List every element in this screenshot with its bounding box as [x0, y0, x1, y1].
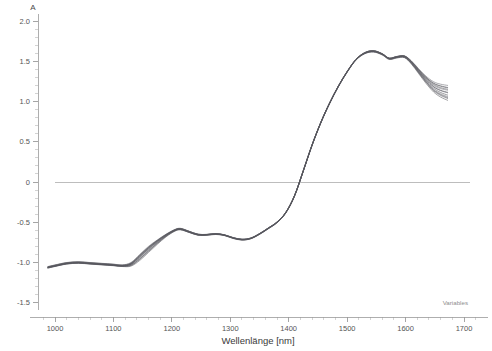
x-tick-label: 1500 — [339, 324, 356, 333]
y-axis-tick-labels: 2.01.51.00.50-0.5-1.0-1.5 — [17, 17, 30, 308]
spectral-chart: 2.01.51.00.50-0.5-1.0-1.5 10001100120013… — [0, 0, 492, 351]
y-axis-minor-ticks — [35, 29, 38, 295]
y-tick-label: 1.0 — [20, 97, 30, 106]
spectra-traces — [48, 51, 448, 269]
spectrum-trace — [48, 51, 448, 267]
spectrum-trace — [48, 51, 448, 267]
y-tick-label: -0.5 — [17, 218, 30, 227]
spectrum-trace — [48, 52, 448, 268]
x-axis-tick-labels: 10001100120013001400150016001700 — [47, 324, 473, 333]
spectrum-trace — [48, 51, 448, 267]
x-tick-label: 1400 — [280, 324, 297, 333]
spectrum-trace — [48, 51, 448, 267]
y-axis-major-ticks — [33, 21, 38, 303]
y-tick-label: 0 — [26, 178, 30, 187]
spectrum-trace — [48, 51, 448, 267]
x-tick-label: 1600 — [397, 324, 414, 333]
y-tick-label: -1.0 — [17, 258, 30, 267]
y-tick-label: -1.5 — [17, 298, 30, 307]
x-axis-title: Wellenlänge [nm] — [221, 335, 294, 346]
variables-annotation: Variables — [443, 299, 468, 306]
x-tick-label: 1200 — [164, 324, 181, 333]
chart-canvas: 2.01.51.00.50-0.5-1.0-1.5 10001100120013… — [0, 0, 492, 351]
y-axis-title: A — [30, 3, 36, 12]
spectrum-trace — [48, 52, 448, 268]
y-tick-label: 2.0 — [20, 17, 30, 26]
x-tick-label: 1000 — [47, 324, 64, 333]
spectrum-trace — [48, 51, 448, 267]
spectrum-trace — [48, 51, 448, 267]
spectrum-trace — [48, 52, 448, 268]
spectrum-trace — [48, 51, 448, 267]
y-tick-label: 0.5 — [20, 137, 30, 146]
y-tick-label: 1.5 — [20, 57, 30, 66]
x-tick-label: 1300 — [222, 324, 239, 333]
x-tick-label: 1700 — [456, 324, 473, 333]
spectrum-trace — [48, 52, 448, 268]
x-axis-major-ticks — [55, 317, 464, 322]
x-tick-label: 1100 — [105, 324, 121, 333]
